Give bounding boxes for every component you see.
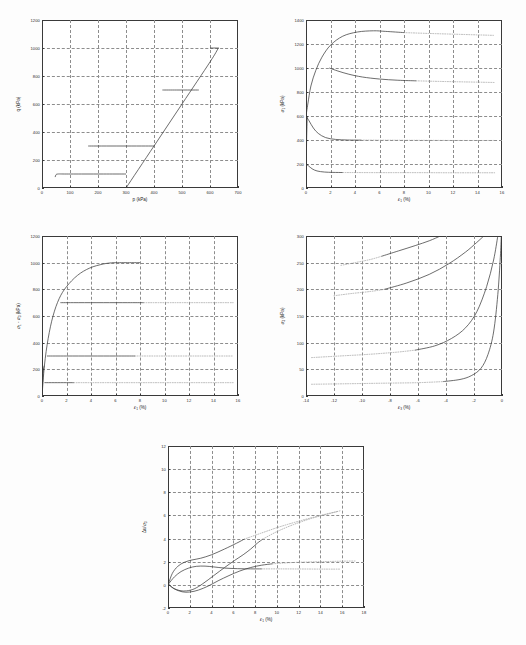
plot-panel-pore-pressure-vs-eps1: 024681012141618-2024681012ε1 (%)Δu/σ3: [130, 434, 396, 645]
data-curve: [443, 236, 501, 382]
data-curve: [263, 511, 340, 539]
curve-layer: [263, 0, 526, 228]
plot-panel-sigma1-vs-eps1: 02468101214160200400600800100012001400ε1…: [263, 0, 526, 228]
data-curve: [384, 236, 483, 289]
curve-layer: [0, 228, 263, 434]
curve-layer: [263, 228, 526, 434]
data-curve: [55, 174, 126, 177]
data-curve: [382, 236, 441, 256]
data-curve: [273, 561, 356, 564]
data-curve: [404, 33, 493, 36]
data-curve: [306, 116, 307, 188]
data-curve: [42, 263, 113, 396]
data-curve: [306, 116, 361, 140]
data-curve: [415, 236, 498, 350]
plot-panel-sigma3-vs-eps3: -14-12-10-8-6-4-20050100150200250300ε3 (…: [263, 228, 526, 434]
curve-layer: [0, 0, 263, 228]
data-curve: [334, 289, 384, 295]
plot-panel-q-vs-p: 0100200300400500600700020040060080010001…: [0, 0, 263, 228]
data-curve: [312, 382, 444, 385]
data-curve: [416, 81, 494, 83]
data-curve: [341, 256, 382, 265]
data-curve: [329, 68, 416, 81]
figure-canvas: 0100200300400500600700020040060080010001…: [0, 0, 526, 645]
data-curve: [312, 350, 416, 357]
plot-panel-deviator-vs-eps1: 0246810121416020040060080010001200ε1 (%)…: [0, 228, 263, 434]
curve-layer: [130, 434, 396, 645]
data-curve: [169, 539, 263, 591]
data-curve: [126, 48, 218, 188]
data-curve: [306, 164, 343, 173]
data-curve: [306, 31, 404, 116]
